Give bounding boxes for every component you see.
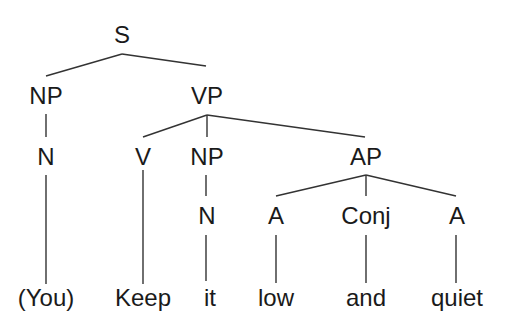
node-a-second: A: [449, 202, 465, 229]
word-low: low: [258, 284, 295, 311]
node-a-first: A: [268, 202, 284, 229]
edge-s-vp: [122, 54, 206, 66]
edge-vp-v: [143, 115, 207, 137]
word-and: and: [346, 284, 386, 311]
tree-edges: [46, 54, 456, 284]
node-ap: AP: [350, 143, 382, 170]
node-vp: VP: [191, 82, 223, 109]
node-s: S: [114, 21, 130, 48]
syntax-tree: S NP VP N V NP AP N A Conj A (You) Keep …: [0, 0, 509, 330]
tree-leaves: (You) Keep it low and quiet: [18, 284, 484, 311]
word-keep: Keep: [115, 284, 171, 311]
edge-s-np: [46, 54, 122, 76]
node-n-subject: N: [37, 143, 54, 170]
word-quiet: quiet: [431, 284, 483, 311]
node-conj: Conj: [341, 202, 390, 229]
edge-vp-ap: [207, 115, 365, 137]
node-n-object: N: [198, 202, 215, 229]
tree-nodes: S NP VP N V NP AP N A Conj A: [29, 21, 465, 229]
edge-ap-a2: [366, 175, 456, 196]
word-you: (You): [18, 284, 74, 311]
node-v: V: [135, 143, 151, 170]
edge-ap-a1: [276, 175, 366, 196]
node-np-subject: NP: [29, 82, 62, 109]
word-it: it: [204, 284, 216, 311]
node-np-object: NP: [190, 143, 223, 170]
